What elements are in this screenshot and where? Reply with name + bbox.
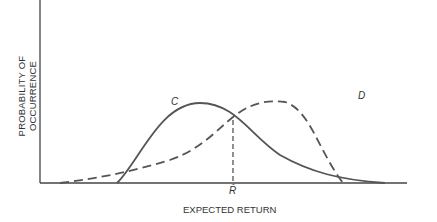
curve-d-label: D xyxy=(358,90,365,101)
curve-c xyxy=(117,103,385,183)
curve-c-label: C xyxy=(171,96,178,107)
curve-d xyxy=(60,101,343,183)
x-axis-label: EXPECTED RETURN xyxy=(183,204,276,215)
y-axis-label: PROBABILITY OF OCCURRENCE xyxy=(16,21,38,171)
rbar-label: R̄ xyxy=(229,185,236,196)
chart-plot xyxy=(0,0,437,222)
